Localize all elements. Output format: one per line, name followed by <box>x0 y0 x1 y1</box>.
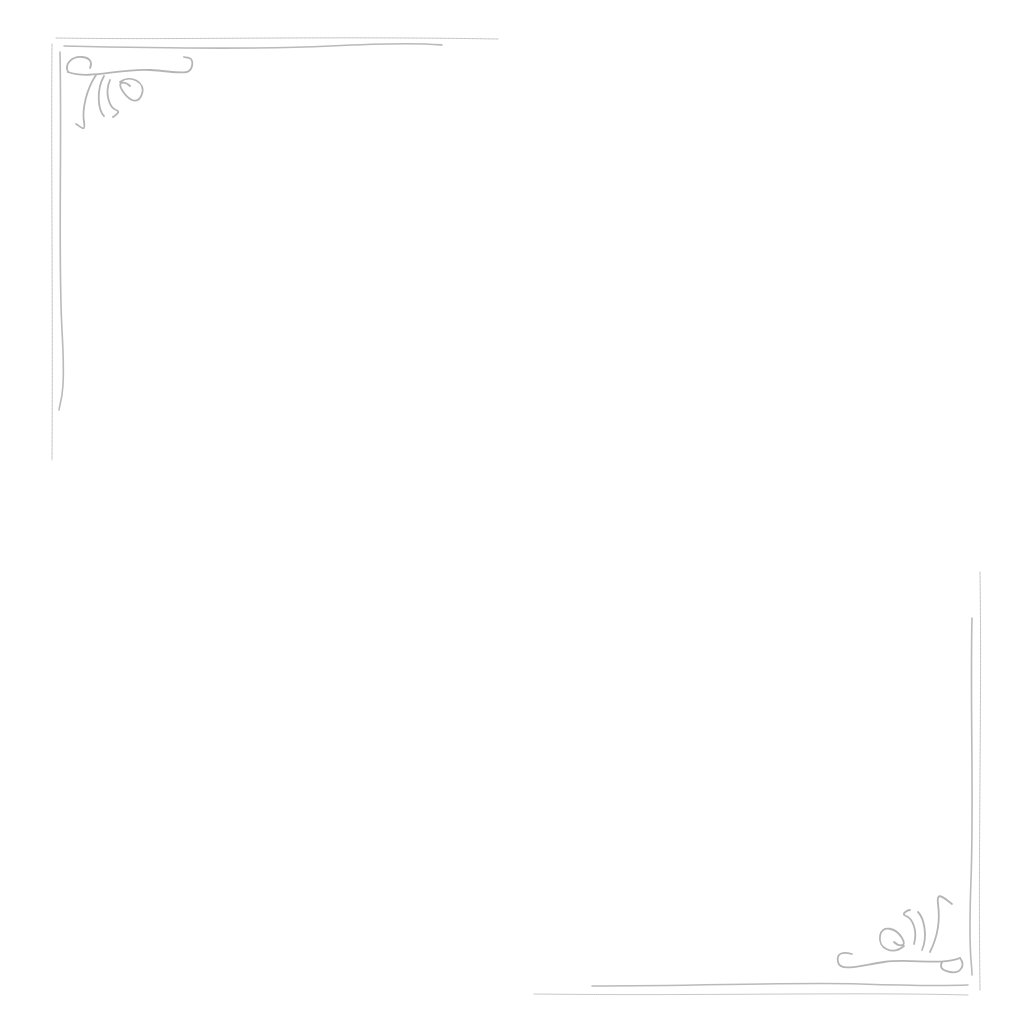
bottom-right-flourish-icon <box>838 896 963 972</box>
page-body <box>120 140 900 880</box>
top-left-flourish-icon <box>67 57 192 129</box>
stationery-page <box>0 0 1022 1018</box>
